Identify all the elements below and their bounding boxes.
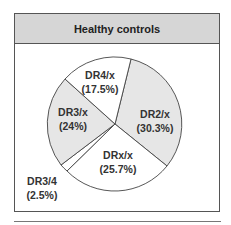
svg-text:(2.5%): (2.5%) — [27, 189, 58, 201]
svg-text:(30.3%): (30.3%) — [137, 122, 174, 134]
slice-label-dr34: DR3/4 (2.5%) — [27, 175, 58, 201]
pie-chart: DR4/x (17.5%) DR2/x (30.3%) DR3/x (24%) … — [0, 0, 231, 225]
svg-text:DR3/4: DR3/4 — [27, 175, 57, 187]
svg-text:DRx/x: DRx/x — [103, 149, 133, 161]
divider — [14, 221, 221, 222]
svg-text:(25.7%): (25.7%) — [100, 163, 137, 175]
svg-text:DR3/x: DR3/x — [58, 106, 88, 118]
svg-text:DR2/x: DR2/x — [140, 108, 170, 120]
svg-text:(24%): (24%) — [59, 120, 87, 132]
svg-text:DR4/x: DR4/x — [85, 69, 115, 81]
svg-text:(17.5%): (17.5%) — [82, 83, 119, 95]
